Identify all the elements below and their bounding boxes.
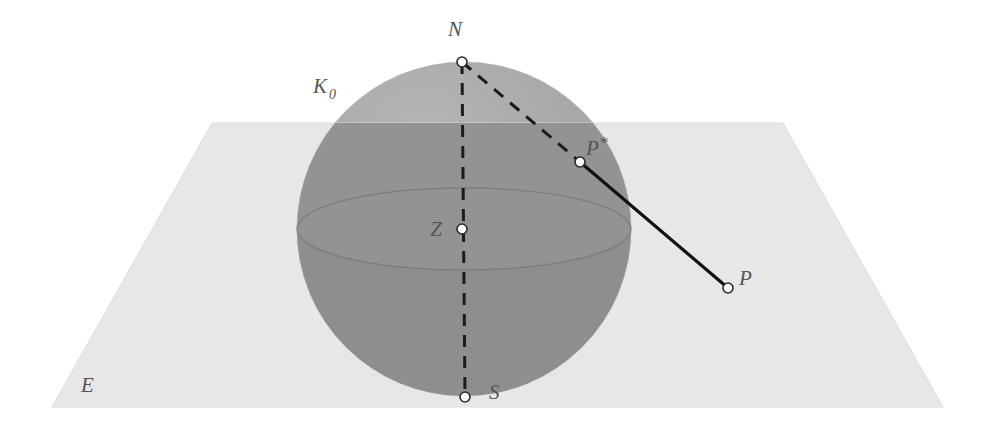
label-plane-point-p: P (738, 266, 752, 290)
label-south-pole: S (489, 380, 500, 404)
label-north-pole: N (447, 17, 463, 41)
stereographic-projection-figure: N K 0 Z S P * P E (0, 0, 993, 428)
label-sphere-circle-letter: K (312, 74, 328, 98)
point-north-pole (457, 57, 467, 67)
label-center-z: Z (430, 217, 442, 241)
label-sphere-circle-subscript: 0 (329, 87, 336, 102)
point-p (723, 283, 733, 293)
point-south-pole (460, 392, 470, 402)
point-center-z (457, 224, 467, 234)
label-sphere-circle: K 0 (312, 74, 336, 102)
label-p-star-letter: P (585, 136, 599, 160)
diagram-canvas: N K 0 Z S P * P E (0, 0, 993, 428)
label-p-star-asterisk: * (600, 133, 609, 152)
label-plane-e: E (80, 373, 94, 397)
point-p-star (575, 157, 585, 167)
